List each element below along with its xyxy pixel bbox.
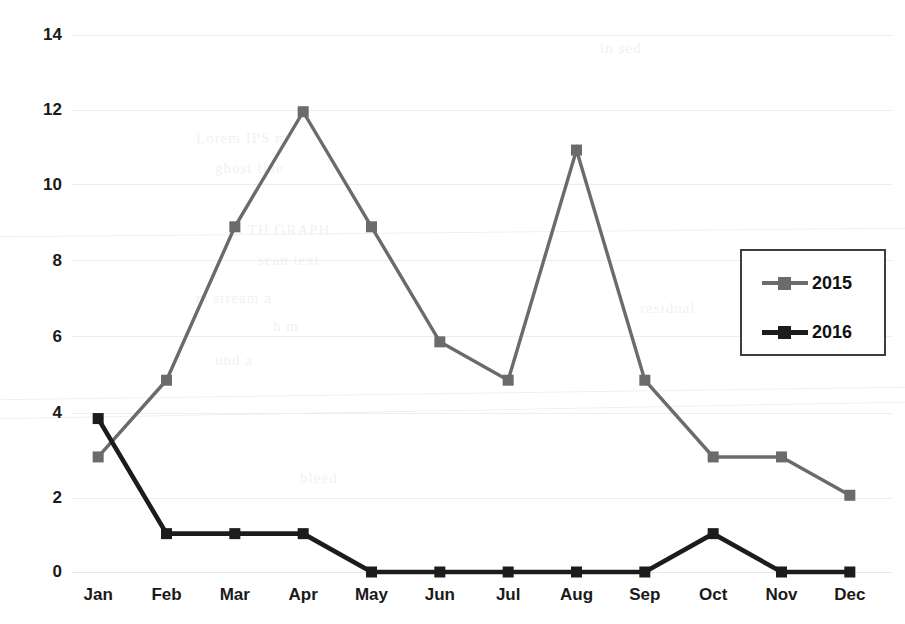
x-tick-label: Oct <box>699 586 727 603</box>
x-tick-label: Mar <box>220 586 250 603</box>
x-tick-label: Nov <box>765 586 797 603</box>
legend-label: 2016 <box>812 323 852 341</box>
legend-swatch-icon <box>762 325 808 339</box>
legend-item-2015[interactable]: 2015 <box>762 274 852 292</box>
x-tick-label: Jul <box>496 586 521 603</box>
x-tick-label: Feb <box>151 586 181 603</box>
x-tick-label: Apr <box>289 586 318 603</box>
legend-swatch-icon <box>762 276 808 290</box>
legend-label: 2015 <box>812 274 852 292</box>
data-point-marker[interactable] <box>503 567 514 578</box>
legend: 2015 2016 <box>740 249 886 356</box>
x-tick-label: Sep <box>629 586 660 603</box>
data-point-marker[interactable] <box>161 528 172 539</box>
x-tick-label: Jun <box>425 586 455 603</box>
data-point-marker[interactable] <box>844 490 855 501</box>
data-point-marker[interactable] <box>503 375 514 386</box>
data-point-marker[interactable] <box>229 221 240 232</box>
data-point-marker[interactable] <box>229 528 240 539</box>
data-point-marker[interactable] <box>434 567 445 578</box>
data-point-marker[interactable] <box>639 375 650 386</box>
data-point-marker[interactable] <box>844 567 855 578</box>
x-tick-label: Dec <box>834 586 865 603</box>
data-point-marker[interactable] <box>93 451 104 462</box>
series-2016 <box>93 413 856 577</box>
data-point-marker[interactable] <box>708 528 719 539</box>
data-point-marker[interactable] <box>571 145 582 156</box>
x-tick-label: May <box>355 586 388 603</box>
line-chart: Lorem IPS m ghost line S TH GRAPH scan t… <box>0 0 905 624</box>
x-tick-label: Jan <box>84 586 113 603</box>
data-point-marker[interactable] <box>366 567 377 578</box>
data-point-marker[interactable] <box>434 336 445 347</box>
x-tick-label: Aug <box>560 586 593 603</box>
data-point-marker[interactable] <box>571 567 582 578</box>
data-point-marker[interactable] <box>708 451 719 462</box>
series-line <box>98 112 850 496</box>
data-point-marker[interactable] <box>161 375 172 386</box>
data-point-marker[interactable] <box>776 451 787 462</box>
data-point-marker[interactable] <box>298 106 309 117</box>
data-point-marker[interactable] <box>298 528 309 539</box>
data-point-marker[interactable] <box>366 221 377 232</box>
data-point-marker[interactable] <box>93 413 104 424</box>
legend-item-2016[interactable]: 2016 <box>762 323 852 341</box>
data-point-marker[interactable] <box>639 567 650 578</box>
series-line <box>98 419 850 572</box>
data-point-marker[interactable] <box>776 567 787 578</box>
